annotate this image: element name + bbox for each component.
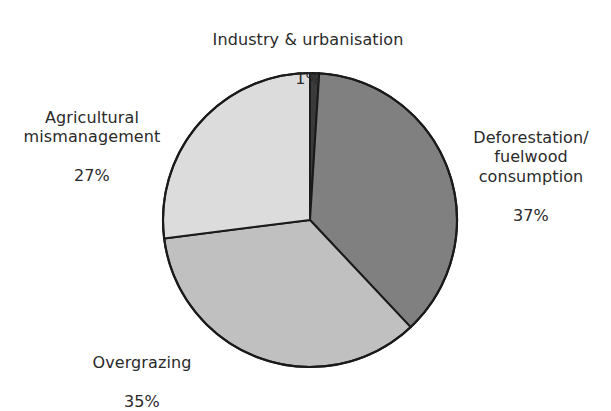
pie-label-deforestation-value: 37% (452, 206, 610, 226)
pie-label-agricultural: Agricultural mismanagement 27% (6, 88, 178, 205)
pie-label-overgrazing-value: 35% (36, 392, 248, 411)
pie-label-deforestation-name: Deforestation/ fuelwood consumption (452, 128, 610, 187)
pie-label-industry-value: 1% (158, 69, 458, 89)
pie-label-deforestation: Deforestation/ fuelwood consumption 37% (452, 108, 610, 245)
pie-label-overgrazing: Overgrazing 35% (36, 333, 248, 411)
pie-label-industry-name: Industry & urbanisation (158, 30, 458, 50)
pie-label-overgrazing-name: Overgrazing (36, 353, 248, 373)
pie-label-agricultural-value: 27% (6, 166, 178, 186)
pie-label-agricultural-name: Agricultural mismanagement (6, 108, 178, 147)
pie-slice-group (163, 73, 457, 367)
pie-label-industry: Industry & urbanisation 1% (158, 10, 458, 108)
